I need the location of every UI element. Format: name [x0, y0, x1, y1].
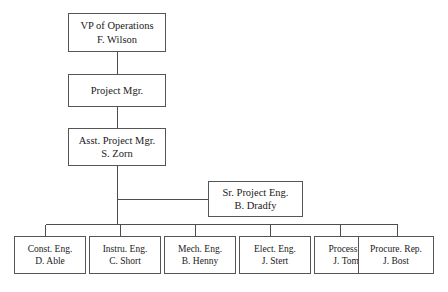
node-title: Asst. Project Mgr. [79, 134, 155, 147]
node-title: Const. Eng. [28, 243, 73, 255]
node-person: S. Zorn [101, 147, 133, 160]
node-person: B. Henny [182, 255, 218, 267]
node-project-mgr[interactable]: Project Mgr. [68, 74, 166, 107]
node-person: B. Dradfy [235, 199, 277, 212]
node-person: C. Short [109, 255, 141, 267]
node-elect-eng[interactable]: Elect. Eng. J. Stert [239, 236, 311, 274]
node-title: Sr. Project Eng. [223, 186, 289, 199]
node-title: VP of Operations [80, 19, 153, 32]
node-asst-project-mgr[interactable]: Asst. Project Mgr. S. Zorn [68, 128, 166, 166]
node-title: Mech. Eng. [178, 243, 222, 255]
org-chart: VP of Operations F. Wilson Project Mgr. … [0, 0, 448, 292]
node-vp-of-operations[interactable]: VP of Operations F. Wilson [68, 13, 166, 52]
node-title: Instru. Eng. [103, 243, 148, 255]
node-procure-rep[interactable]: Procure. Rep. J. Bost [358, 236, 434, 274]
node-person: J. Stert [262, 255, 288, 267]
node-const-eng[interactable]: Const. Eng. D. Able [14, 236, 86, 274]
node-instru-eng[interactable]: Instru. Eng. C. Short [89, 236, 161, 274]
node-person: F. Wilson [97, 33, 137, 46]
node-person: D. Able [35, 255, 65, 267]
node-title: Procure. Rep. [370, 243, 422, 255]
node-title: Elect. Eng. [254, 243, 296, 255]
node-sr-project-eng[interactable]: Sr. Project Eng. B. Dradfy [208, 181, 303, 217]
node-person: J. Bost [383, 255, 409, 267]
node-title: Project Mgr. [91, 84, 144, 97]
node-mech-eng[interactable]: Mech. Eng. B. Henny [164, 236, 236, 274]
